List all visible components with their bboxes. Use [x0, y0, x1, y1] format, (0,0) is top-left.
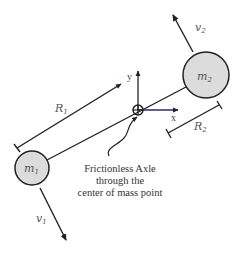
v2-label: v2: [195, 21, 206, 35]
r1-label: R1: [54, 102, 68, 116]
caption-line-1: Frictionless Axle: [84, 163, 156, 174]
caption-line-2: through the: [96, 175, 144, 186]
rod: [47, 87, 186, 160]
r2-label: R2: [193, 120, 207, 134]
diagram-canvas: R1 R2 y x m2 m1 v2 v1 Frictionless Axle …: [0, 0, 244, 256]
mass-m2: m2: [183, 52, 229, 98]
velocity-arrow-v1: [40, 188, 66, 240]
mass-m1: m1: [15, 151, 49, 185]
velocity-arrow-v2: [173, 15, 193, 52]
axle-pointer: [108, 117, 137, 156]
r1-dimension: [14, 84, 121, 152]
y-axis-label: y: [127, 71, 132, 82]
axle-icon: [133, 105, 143, 115]
v1-label: v1: [36, 212, 47, 226]
caption-line-3: center of mass point: [78, 187, 163, 198]
x-axis-label: x: [171, 112, 176, 123]
